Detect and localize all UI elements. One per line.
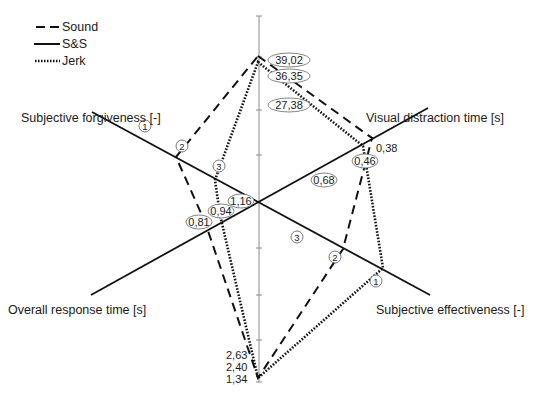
label-or-sound: 0,81 (188, 216, 209, 228)
label-bot-ss: 1,34 (226, 373, 247, 385)
legend: Sound S&S Jerk (34, 20, 98, 68)
rank-se-ss: 3 (294, 232, 299, 243)
axis-forgiveness-effectiveness (92, 112, 430, 295)
label-or-jerk: 0,94 (210, 205, 231, 217)
label-bot-sound: 2,40 (226, 361, 247, 373)
axis-label-overall-response: Overall response time [s] (8, 303, 146, 317)
rank-sf-sound: 2 (179, 141, 184, 152)
axis-label-subjective-forgiveness: Subjective forgiveness [-] (21, 111, 161, 125)
label-vd-sound: 0,38 (376, 142, 397, 154)
label-or-ss: 1,16 (230, 195, 251, 207)
label-vd-jerk: 0,46 (354, 155, 375, 167)
label-vd-ss: 0,68 (313, 174, 334, 186)
top-value-labels: 39,02 36,35 27,38 (268, 53, 310, 112)
legend-label-jerk: Jerk (62, 54, 86, 68)
label-bot-jerk: 2,63 (226, 349, 247, 361)
rank-se-jerk: 1 (373, 276, 378, 287)
vertical-axis (256, 16, 262, 382)
axis-label-subjective-effectiveness: Subjective effectiveness [-] (376, 303, 524, 317)
label-top-sound: 39,02 (275, 54, 303, 66)
label-top-jerk: 36,35 (275, 70, 303, 82)
bottom-value-labels: 2,63 2,40 1,34 (226, 349, 247, 385)
subjective-forgiveness-ranks: 1 2 3 (139, 120, 225, 172)
legend-label-sound: Sound (62, 20, 98, 34)
rank-sf-jerk: 3 (216, 161, 221, 172)
subjective-effectiveness-ranks: 1 2 3 (291, 231, 382, 287)
rank-se-sound: 2 (332, 252, 337, 263)
axis-label-visual-distraction: Visual distraction time [s] (366, 111, 504, 125)
legend-label-ss: S&S (62, 37, 87, 51)
label-top-ss: 27,38 (275, 99, 303, 111)
radar-chart: 39,02 36,35 27,38 0,38 0,46 0,68 0,81 0,… (0, 0, 545, 396)
